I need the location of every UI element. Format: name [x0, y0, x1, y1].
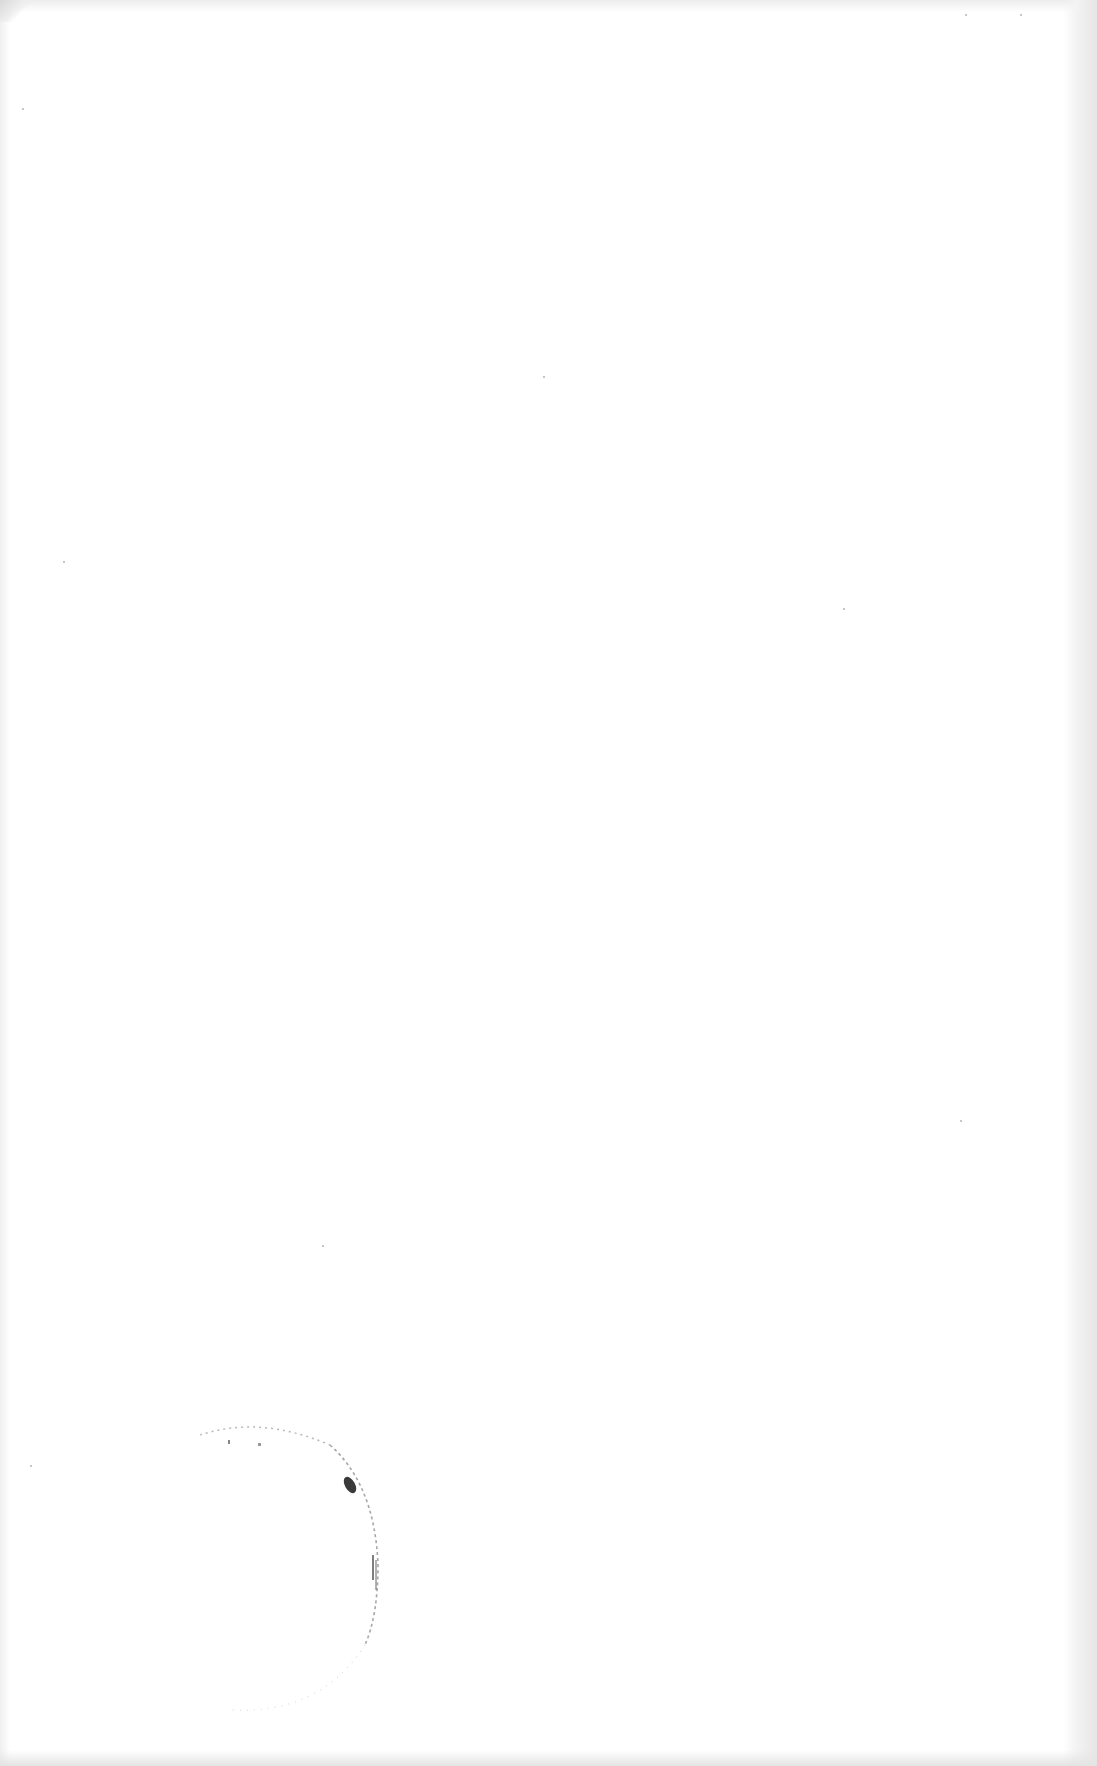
scan-edge-top	[0, 0, 1097, 12]
faded-stamp-icon	[200, 1415, 450, 1725]
scan-edge-left	[0, 0, 10, 1766]
scan-edge-right	[1063, 0, 1097, 1766]
blank-page	[0, 0, 1097, 1766]
folded-corner	[0, 0, 28, 22]
scan-edge-bottom	[0, 1750, 1097, 1766]
